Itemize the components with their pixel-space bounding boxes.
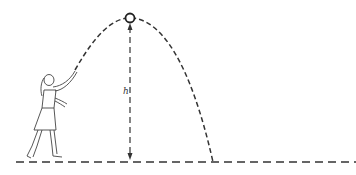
height-label: h: [123, 86, 129, 96]
person-figure: [27, 71, 77, 158]
arrow-up-icon: [128, 23, 133, 30]
ball-icon: [126, 14, 135, 23]
arrow-down-icon: [128, 153, 133, 160]
projectile-diagram: [0, 0, 356, 175]
trajectory-path: [75, 18, 213, 162]
